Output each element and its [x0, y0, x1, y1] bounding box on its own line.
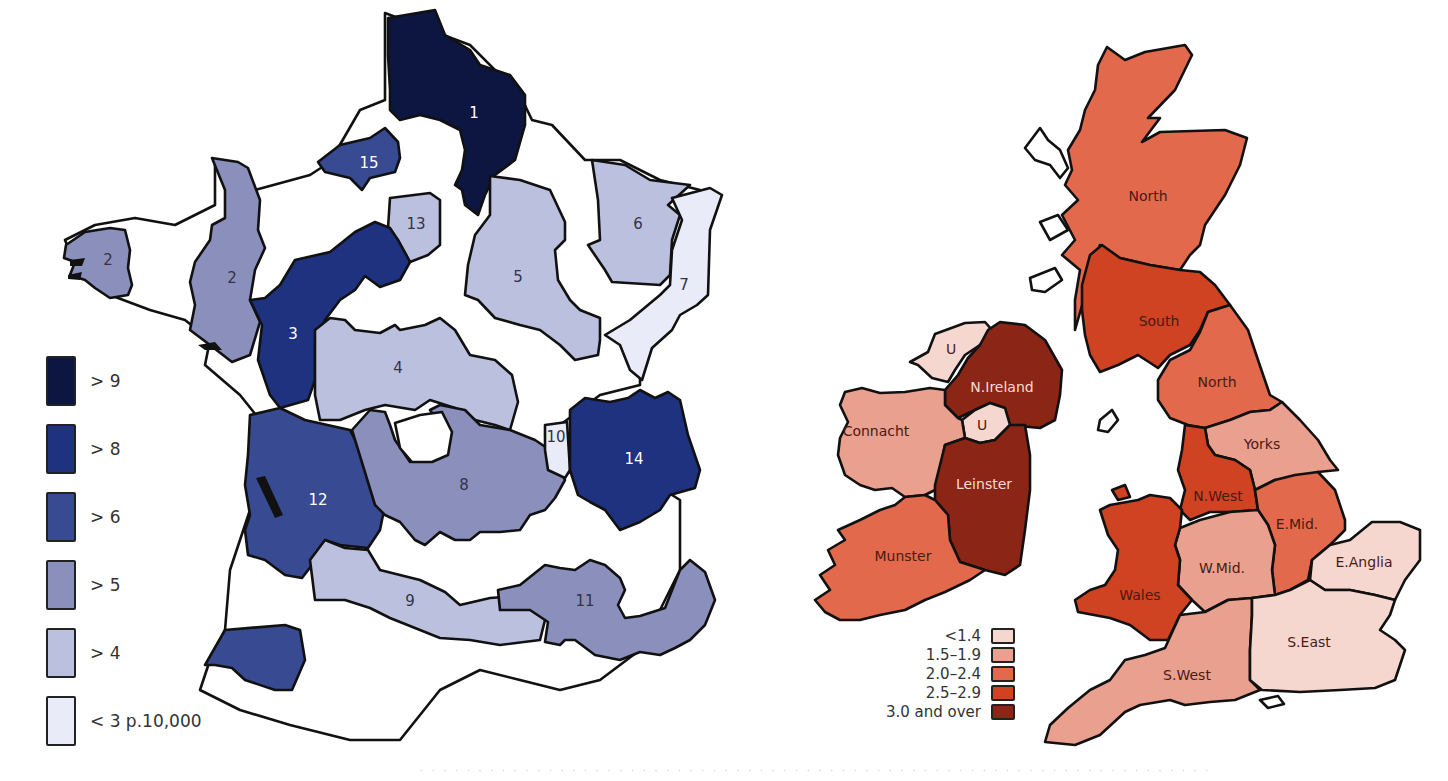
uk-ireland-choropleth-map: North South North Yorks N.West E.Mid. W.… — [0, 0, 1448, 781]
uk-legend-item: 1.5–1.9 — [860, 645, 1015, 664]
isle-of-man — [1098, 410, 1118, 432]
legend-label: 2.5–2.9 — [926, 684, 981, 702]
ireland-region-nireland-label: N.Ireland — [970, 379, 1033, 395]
uk-region-scotland-north-label: North — [1128, 188, 1167, 204]
uk-region-wmid-label: W.Mid. — [1199, 560, 1245, 576]
caption-cutoff: · · · · · · · · · · · · · · · · · · · · … — [420, 766, 1420, 780]
uk-legend-item: <1.4 — [860, 626, 1015, 645]
legend-swatch — [991, 647, 1015, 663]
scotland-islands — [1025, 128, 1068, 178]
legend-swatch — [991, 704, 1015, 720]
uk-region-anglesey — [1112, 485, 1130, 500]
uk-legend: <1.4 1.5–1.9 2.0–2.4 2.5–2.9 3.0 and ove… — [860, 626, 1015, 721]
legend-swatch — [991, 666, 1015, 682]
ireland-region-leinster-label: Leinster — [956, 476, 1012, 492]
ireland-region-munster-label: Munster — [875, 548, 932, 564]
ireland-region-u-donegal-label: U — [946, 341, 956, 357]
uk-region-england-north-label: North — [1197, 374, 1236, 390]
uk-region-yorks-label: Yorks — [1243, 436, 1280, 452]
legend-label: 3.0 and over — [886, 703, 981, 721]
ireland-region-u-cavan-label: U — [977, 417, 987, 433]
uk-region-seast-label: S.East — [1287, 634, 1331, 650]
legend-swatch — [991, 628, 1015, 644]
uk-legend-item: 2.0–2.4 — [860, 664, 1015, 683]
uk-region-emid-label: E.Mid. — [1276, 516, 1319, 532]
legend-swatch — [991, 685, 1015, 701]
uk-region-eanglia-label: E.Anglia — [1336, 554, 1393, 570]
uk-region-swest-label: S.West — [1163, 667, 1211, 683]
uk-legend-item: 3.0 and over — [860, 702, 1015, 721]
legend-label: 1.5–1.9 — [926, 646, 981, 664]
uk-region-wales-label: Wales — [1119, 587, 1160, 603]
legend-label: <1.4 — [945, 627, 981, 645]
isle-of-wight — [1260, 696, 1284, 708]
uk-region-scotland-south-label: South — [1139, 313, 1180, 329]
scotland-islands — [1030, 268, 1062, 292]
legend-label: 2.0–2.4 — [926, 665, 981, 683]
uk-legend-item: 2.5–2.9 — [860, 683, 1015, 702]
uk-region-nwest-label: N.West — [1193, 488, 1243, 504]
ireland-region-connacht-label: Connacht — [843, 423, 910, 439]
uk-region-wales — [1075, 495, 1192, 640]
